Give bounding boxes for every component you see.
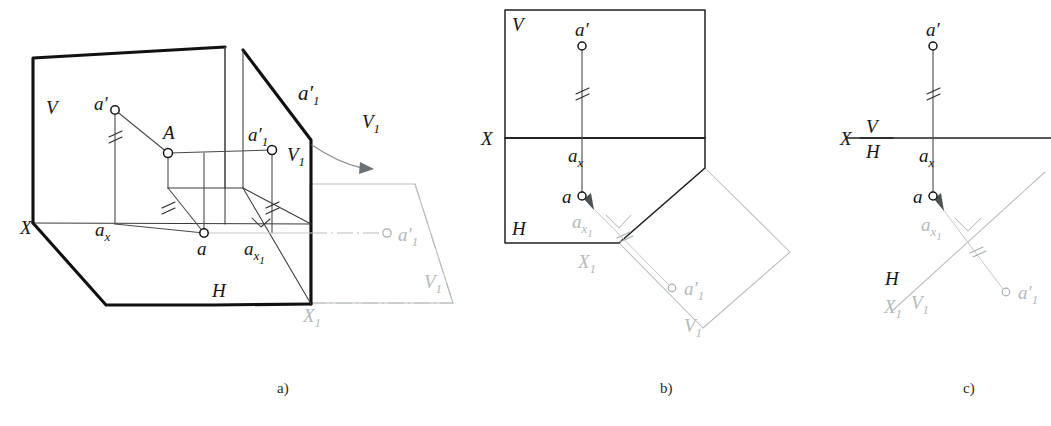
labels-panel-a: V X a′ A a ax ax1 a′1 a′1 V1 V1 H a′1 V1… xyxy=(19,81,442,330)
point-a1-prime-marker-c xyxy=(1002,288,1010,296)
v1-square-ghost-b xyxy=(619,168,790,328)
label-point-a-prime-c: a′ xyxy=(926,19,941,40)
label-fraction-bottom-c: H xyxy=(865,141,881,162)
point-a1-prime-marker xyxy=(268,146,277,155)
v-rectangle-b xyxy=(505,10,705,138)
label-new-axis-v1-c: V1 xyxy=(911,292,929,317)
label-fraction-top-c: V xyxy=(866,116,880,137)
label-point-a-b: a xyxy=(562,186,572,207)
point-a1-prime-marker-b xyxy=(668,284,676,292)
label-plane-v1-edge-a: V1 xyxy=(287,144,305,169)
labels-panel-c: X V H a′ a ax ax1 H X1 V1 a′1 xyxy=(839,19,1038,321)
point-A-marker xyxy=(164,149,173,158)
rotation-arrow xyxy=(312,145,374,174)
point-a-prime-marker-b xyxy=(578,42,586,50)
label-point-a-prime-b: a′ xyxy=(575,19,590,40)
label-plane-v-a: V xyxy=(46,97,60,118)
label-point-a-a: a xyxy=(197,238,207,259)
label-point-ax1-c: ax1 xyxy=(921,214,942,242)
label-a1-prime-upper-a: a′1 xyxy=(248,124,268,149)
label-axis-x-c: X xyxy=(839,128,853,149)
captions: a) b) c) xyxy=(277,380,975,397)
label-plane-v1-b: V1 xyxy=(684,315,702,340)
point-a-marker-c xyxy=(929,192,937,200)
v1-plane-outline xyxy=(168,50,311,304)
label-axis-x1-b: X1 xyxy=(577,251,596,276)
label-point-ax-b: ax xyxy=(568,145,584,170)
label-point-A-a: A xyxy=(161,122,175,143)
point-a-marker xyxy=(200,229,208,237)
label-a1-prime-c: a′1 xyxy=(1018,282,1038,307)
label-point-ax-c: ax xyxy=(919,145,935,170)
caption-a: a) xyxy=(277,380,289,397)
points-panel-b xyxy=(578,42,676,292)
label-point-ax1-b: ax1 xyxy=(572,211,593,239)
label-point-ax1-a: ax1 xyxy=(244,238,265,266)
technical-drawing-canvas: V X a′ A a ax ax1 a′1 a′1 V1 V1 H a′1 V1… xyxy=(0,0,1051,426)
label-axis-x-a: X xyxy=(19,217,33,238)
point-a-marker-b xyxy=(578,192,586,200)
v-plane-outline xyxy=(33,47,225,224)
label-a1-prime-plane-a: a′1 xyxy=(298,81,320,108)
h-plane-outline xyxy=(33,223,311,305)
panel-a: V X a′ A a ax ax1 a′1 a′1 V1 V1 H a′1 V1… xyxy=(19,47,453,330)
label-a1-prime-b: a′1 xyxy=(684,278,704,303)
caption-b: b) xyxy=(660,380,673,397)
label-point-a-c: a xyxy=(913,186,923,207)
point-a1-prime-rotated-marker xyxy=(383,229,391,237)
projection-line-new-b xyxy=(584,193,669,285)
label-plane-v-b: V xyxy=(512,14,526,35)
point-a-prime-marker xyxy=(111,106,119,114)
panel-c: X V H a′ a ax ax1 H X1 V1 a′1 xyxy=(839,19,1051,321)
right-angle-marker-b xyxy=(606,215,631,228)
figure-root: V X a′ A a ax ax1 a′1 a′1 V1 V1 H a′1 V1… xyxy=(0,0,1051,426)
label-plane-v1-rotated-a: V1 xyxy=(424,271,442,296)
label-a1-prime-rotated-a: a′1 xyxy=(398,224,418,249)
label-axis-x-b: X xyxy=(480,128,494,149)
label-axis-x1-a: X1 xyxy=(302,305,321,330)
label-point-a-prime-a: a′ xyxy=(94,93,109,114)
label-new-axis-h-c: H xyxy=(884,268,900,289)
caption-c: c) xyxy=(963,380,975,397)
point-a-prime-marker-c xyxy=(929,42,937,50)
h-rectangle-b xyxy=(505,138,705,243)
label-new-axis-x1-c: X1 xyxy=(883,296,902,321)
panel-b: V H X a′ a ax ax1 X1 a′1 V1 xyxy=(480,10,790,340)
label-plane-h-b: H xyxy=(511,218,527,239)
label-plane-v1-top-a: V1 xyxy=(362,111,380,136)
points-panel-c xyxy=(929,42,1010,296)
right-angle-marker-c xyxy=(955,218,981,231)
label-plane-h-a: H xyxy=(211,280,227,301)
